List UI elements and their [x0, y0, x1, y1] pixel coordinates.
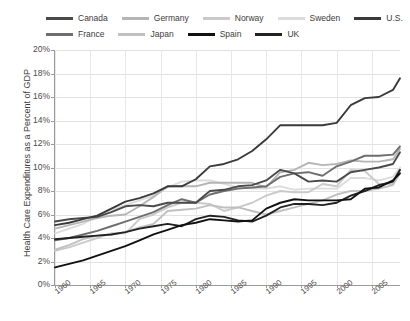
legend-swatch-icon — [255, 33, 282, 36]
legend-label: Norway — [235, 14, 264, 23]
legend-swatch-icon — [122, 17, 149, 20]
x-tick-mark — [90, 285, 91, 288]
series-line-us — [55, 78, 400, 225]
legend-label: Japan — [150, 30, 173, 39]
y-tick-label: 4% — [12, 233, 50, 242]
legend-row: FranceJapanSpainUK — [46, 26, 402, 42]
legend-item-norway[interactable]: Norway — [203, 14, 264, 23]
legend-swatch-icon — [188, 33, 215, 36]
y-tick-label: 12% — [12, 139, 50, 148]
x-tick-mark — [372, 285, 373, 288]
y-tick-label: 0% — [12, 280, 50, 289]
legend-row: CanadaGermanyNorwaySwedenU.S. — [46, 10, 402, 26]
legend-swatch-icon — [118, 33, 145, 36]
plot-area — [55, 50, 400, 285]
series-line-spain — [55, 173, 400, 267]
x-tick-mark — [231, 285, 232, 288]
y-tick-label: 16% — [12, 92, 50, 101]
y-axis-labels: 20%18%16%14%12%10%8%6%4%2%0% — [8, 50, 50, 286]
x-tick-mark — [55, 285, 56, 288]
legend-label: UK — [287, 30, 299, 39]
legend-item-canada[interactable]: Canada — [46, 14, 108, 23]
legend-item-spain[interactable]: Spain — [188, 30, 242, 39]
legend-label: Germany — [154, 14, 189, 23]
legend-swatch-icon — [46, 33, 73, 36]
legend-swatch-icon — [278, 17, 305, 20]
legend-item-france[interactable]: France — [46, 30, 104, 39]
legend-swatch-icon — [46, 17, 73, 20]
y-tick-label: 20% — [12, 45, 50, 54]
chart-container: CanadaGermanyNorwaySwedenU.S.FranceJapan… — [0, 0, 410, 321]
y-tick-label: 6% — [12, 210, 50, 219]
legend-label: Spain — [220, 30, 242, 39]
legend-label: Sweden — [310, 14, 341, 23]
y-tick-label: 2% — [12, 257, 50, 266]
x-axis-labels: 1960196519701975198019851990199520002005 — [55, 287, 405, 321]
x-tick-mark — [301, 285, 302, 288]
legend-swatch-icon — [203, 17, 230, 20]
x-tick-mark — [196, 285, 197, 288]
legend-item-uk[interactable]: UK — [255, 30, 299, 39]
legend-item-us[interactable]: U.S. — [354, 14, 403, 23]
series-lines — [55, 50, 400, 285]
legend-swatch-icon — [354, 17, 381, 20]
legend-label: France — [78, 30, 104, 39]
x-tick-mark — [161, 285, 162, 288]
x-tick-mark — [266, 285, 267, 288]
legend-item-sweden[interactable]: Sweden — [278, 14, 341, 23]
x-tick-mark — [337, 285, 338, 288]
y-tick-label: 14% — [12, 116, 50, 125]
legend-label: Canada — [78, 14, 108, 23]
legend-item-japan[interactable]: Japan — [118, 30, 173, 39]
chart-legend: CanadaGermanyNorwaySwedenU.S.FranceJapan… — [46, 10, 402, 42]
x-tick-mark — [125, 285, 126, 288]
series-line-sweden — [55, 168, 400, 234]
legend-item-germany[interactable]: Germany — [122, 14, 189, 23]
legend-label: U.S. — [386, 14, 403, 23]
y-tick-label: 10% — [12, 163, 50, 172]
y-tick-label: 18% — [12, 69, 50, 78]
y-tick-label: 8% — [12, 186, 50, 195]
